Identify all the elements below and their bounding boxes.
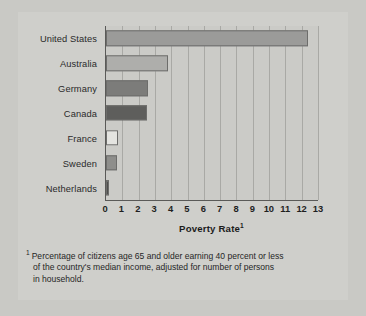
bar-row bbox=[106, 175, 318, 200]
chart-card: United States Australia Germany Canada F… bbox=[18, 12, 348, 300]
bar-row bbox=[106, 51, 318, 76]
footnote-line-3: in household. bbox=[26, 274, 342, 286]
plot-area bbox=[105, 26, 318, 201]
bar-row bbox=[106, 125, 318, 150]
axis-tick-label: 10 bbox=[264, 203, 274, 214]
category-label: Canada bbox=[18, 101, 102, 126]
category-label: Germany bbox=[18, 76, 102, 101]
axis-tick-label: 1 bbox=[119, 203, 124, 214]
category-label: Australia bbox=[18, 51, 102, 76]
axis-tick-label: 2 bbox=[135, 203, 140, 214]
axis-tick-label: 6 bbox=[201, 203, 206, 214]
footnote-line-1: Percentage of citizens age 65 and older … bbox=[32, 251, 284, 261]
bar-row bbox=[106, 76, 318, 101]
category-label: Sweden bbox=[18, 151, 102, 176]
bar-germany bbox=[106, 80, 148, 95]
axis-tick-label: 8 bbox=[233, 203, 238, 214]
bar-france bbox=[106, 130, 118, 145]
value-axis-ticks: 012345678910111213 bbox=[105, 203, 318, 219]
axis-tick-label: 5 bbox=[184, 203, 189, 214]
category-axis-labels: United States Australia Germany Canada F… bbox=[18, 26, 102, 201]
axis-tick-label: 12 bbox=[296, 203, 306, 214]
gridline bbox=[318, 26, 319, 200]
axis-title-text: Poverty Rate bbox=[179, 223, 240, 234]
axis-tick-label: 4 bbox=[168, 203, 173, 214]
bar-row bbox=[106, 101, 318, 126]
category-label: Netherlands bbox=[18, 176, 102, 201]
bar-row bbox=[106, 150, 318, 175]
footnote: 1Percentage of citizens age 65 and older… bbox=[26, 247, 342, 286]
footnote-marker: 1 bbox=[26, 249, 30, 256]
bar-united-states bbox=[106, 31, 308, 46]
bar-chart: United States Australia Germany Canada F… bbox=[18, 12, 348, 217]
axis-tick-label: 0 bbox=[102, 203, 107, 214]
axis-tick-label: 9 bbox=[250, 203, 255, 214]
bar-sweden bbox=[106, 155, 117, 170]
bar-row bbox=[106, 26, 318, 51]
bar-canada bbox=[106, 105, 147, 120]
axis-title: Poverty Rate1 bbox=[105, 222, 318, 234]
chart-screenshot: United States Australia Germany Canada F… bbox=[0, 0, 366, 316]
axis-title-footnote-marker: 1 bbox=[240, 222, 244, 229]
bar-series bbox=[106, 26, 318, 200]
bar-australia bbox=[106, 56, 168, 71]
axis-tick-label: 11 bbox=[280, 203, 290, 214]
category-label: United States bbox=[18, 26, 102, 51]
bar-netherlands bbox=[106, 180, 109, 195]
axis-tick-label: 3 bbox=[152, 203, 157, 214]
axis-tick-label: 7 bbox=[217, 203, 222, 214]
footnote-line-2: of the country's median income, adjusted… bbox=[26, 262, 342, 274]
axis-tick-label: 13 bbox=[313, 203, 323, 214]
category-label: France bbox=[18, 126, 102, 151]
